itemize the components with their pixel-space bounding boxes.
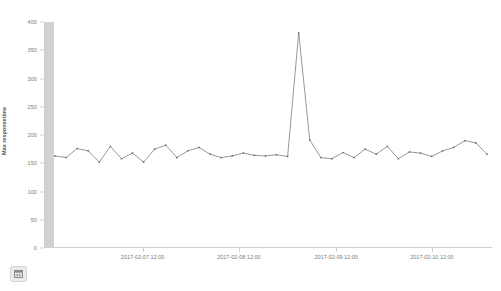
x-tick-label: 2017-02-07 12:00 (121, 254, 164, 260)
data-point (398, 158, 400, 160)
data-point (154, 148, 156, 150)
data-point (353, 157, 355, 159)
data-point (87, 150, 89, 152)
plot-area (44, 22, 492, 248)
x-axis: 2017-02-07 12:002017-02-08 12:002017-02-… (44, 248, 492, 262)
series-markers (54, 32, 488, 163)
data-point (121, 158, 123, 160)
data-point (464, 140, 466, 142)
data-point (65, 157, 67, 159)
y-tick-label: 400 (28, 19, 37, 25)
x-tick-mark (336, 248, 337, 252)
data-point (342, 152, 344, 154)
data-point (176, 157, 178, 159)
y-tick-label: 350 (28, 47, 37, 53)
data-point (276, 154, 278, 156)
data-point (132, 152, 134, 154)
data-point (242, 152, 244, 154)
chart-footer (0, 262, 501, 291)
data-point (320, 157, 322, 159)
data-point (298, 32, 300, 34)
plot-inner (45, 22, 492, 247)
chart-screenshot: Max responsetime 05010015020025030035040… (0, 0, 501, 291)
x-tick-label: 2017-02-08 12:00 (217, 254, 260, 260)
data-point (198, 147, 200, 149)
y-axis-title: Max responsetime (1, 107, 7, 155)
data-point (209, 153, 211, 155)
x-tick-mark (143, 248, 144, 252)
y-tick-label: 150 (28, 160, 37, 166)
data-point (265, 155, 267, 157)
data-point (475, 142, 477, 144)
data-point (386, 145, 388, 147)
data-point (143, 161, 145, 163)
data-point (420, 152, 422, 154)
y-tick-label: 100 (28, 189, 37, 195)
data-point (364, 148, 366, 150)
chart-panel: Max responsetime 05010015020025030035040… (0, 0, 501, 262)
data-point (486, 153, 488, 155)
data-point (453, 147, 455, 149)
data-point (165, 144, 167, 146)
y-axis: Max responsetime 05010015020025030035040… (0, 0, 44, 262)
data-point (231, 155, 233, 157)
x-tick-label: 2017-02-10 12:00 (410, 254, 453, 260)
data-point (442, 150, 444, 152)
y-tick-label: 0 (34, 245, 37, 251)
data-point (309, 139, 311, 141)
table-icon (14, 270, 23, 278)
series-line (55, 33, 487, 162)
series-svg (45, 22, 492, 247)
data-point (110, 145, 112, 147)
data-point (254, 154, 256, 156)
x-tick-mark (239, 248, 240, 252)
data-point (54, 155, 56, 157)
x-tick-mark (432, 248, 433, 252)
x-tick-label: 2017-02-09 12:00 (314, 254, 357, 260)
data-point (375, 153, 377, 155)
table-view-button[interactable] (10, 266, 27, 282)
y-tick-label: 50 (31, 217, 37, 223)
data-point (409, 151, 411, 153)
y-tick-label: 200 (28, 132, 37, 138)
data-point (76, 148, 78, 150)
data-point (220, 157, 222, 159)
data-point (331, 158, 333, 160)
data-point (287, 156, 289, 158)
data-point (431, 156, 433, 158)
y-tick-label: 300 (28, 76, 37, 82)
data-point (98, 161, 100, 163)
y-tick-label: 250 (28, 104, 37, 110)
data-point (187, 150, 189, 152)
